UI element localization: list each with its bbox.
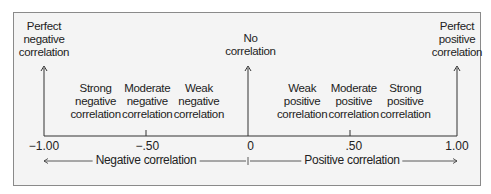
category-label-strong-negative-correlation: Strongnegativecorrelation (70, 82, 120, 121)
top-label-no-correlation: Nocorrelation (225, 32, 275, 58)
label-line: correlation (174, 108, 224, 121)
top-label-perfect-negative-correlation: Perfectnegativecorrelation (19, 20, 69, 59)
label-line: Weak (174, 82, 224, 95)
label-line: No (225, 32, 275, 45)
label-line: correlation (225, 45, 275, 58)
category-label-weak-negative-correlation: Weaknegativecorrelation (174, 82, 224, 121)
negative-correlation-label: Negative correlation (93, 153, 200, 167)
label-line: positive (432, 33, 482, 46)
category-label-strong-positive-correlation: Strongpositivecorrelation (380, 82, 430, 121)
label-line: negative (174, 95, 224, 108)
label-line: correlation (19, 46, 69, 59)
label-line: negative (70, 95, 120, 108)
label-line: correlation (329, 108, 379, 121)
label-line: positive (380, 95, 430, 108)
label-line: correlation (380, 108, 430, 121)
label-line: positive (277, 95, 327, 108)
category-label-moderate-positive-correlation: Moderatepositivecorrelation (329, 82, 379, 121)
tick-label: 0 (247, 139, 254, 153)
label-line: Strong (70, 82, 120, 95)
label-line: correlation (432, 46, 482, 59)
category-label-weak-positive-correlation: Weakpositivecorrelation (277, 82, 327, 121)
tick-label: −.50 (135, 139, 159, 153)
category-label-moderate-negative-correlation: Moderatenegativecorrelation (122, 82, 172, 121)
top-label-perfect-positive-correlation: Perfectpositivecorrelation (432, 20, 482, 59)
label-line: Weak (277, 82, 327, 95)
label-line: Moderate (329, 82, 379, 95)
label-line: Moderate (122, 82, 172, 95)
tick-label: .50 (345, 139, 362, 153)
label-line: positive (329, 95, 379, 108)
label-line: negative (122, 95, 172, 108)
tick-label: −1.00 (29, 139, 59, 153)
label-line: correlation (122, 108, 172, 121)
tick-label: 1.00 (445, 139, 468, 153)
label-line: correlation (70, 108, 120, 121)
label-line: Perfect (19, 20, 69, 33)
label-line: Perfect (432, 20, 482, 33)
label-line: negative (19, 33, 69, 46)
label-line: Strong (380, 82, 430, 95)
label-line: correlation (277, 108, 327, 121)
positive-correlation-label: Positive correlation (301, 153, 402, 167)
